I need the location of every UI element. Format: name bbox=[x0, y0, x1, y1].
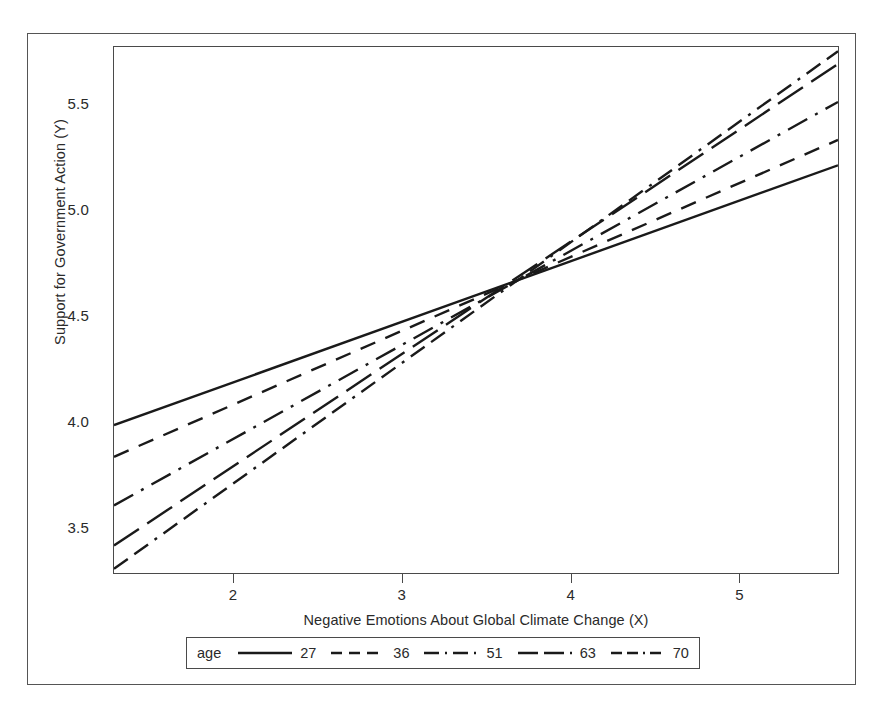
x-tick-mark bbox=[233, 574, 234, 583]
y-tick-label: 3.5 bbox=[68, 519, 89, 536]
series-line-70 bbox=[114, 51, 838, 569]
legend-entry-51[interactable]: 51 bbox=[423, 645, 502, 661]
legend-label: 51 bbox=[486, 645, 502, 661]
x-tick-mark bbox=[571, 574, 572, 583]
legend-label: 27 bbox=[300, 645, 316, 661]
y-axis-ticks: 3.54.04.55.05.5 bbox=[56, 46, 105, 574]
legend-swatch-long-dash bbox=[517, 647, 573, 659]
x-axis-title: Negative Emotions About Global Climate C… bbox=[113, 612, 839, 628]
x-tick-label: 4 bbox=[566, 586, 574, 603]
x-tick-label: 5 bbox=[735, 586, 743, 603]
legend-entries: 2736516370 bbox=[237, 645, 689, 661]
legend-entry-63[interactable]: 63 bbox=[517, 645, 596, 661]
y-tick-label: 4.5 bbox=[68, 307, 89, 324]
x-tick-label: 2 bbox=[229, 586, 237, 603]
series-line-63 bbox=[114, 64, 838, 546]
figure-frame: Support for Government Action (Y) 3.54.0… bbox=[27, 33, 856, 685]
plot-area bbox=[113, 46, 839, 574]
legend-swatch-dashed bbox=[330, 647, 386, 659]
chart-region: Support for Government Action (Y) 3.54.0… bbox=[28, 34, 857, 686]
legend-swatch-dash-dash-dot bbox=[610, 647, 666, 659]
legend-entry-36[interactable]: 36 bbox=[330, 645, 409, 661]
y-tick-label: 5.5 bbox=[68, 95, 89, 112]
legend-swatch-solid bbox=[237, 647, 293, 659]
legend-title: age bbox=[197, 645, 221, 661]
x-tick-label: 3 bbox=[398, 586, 406, 603]
x-axis-ticks: 2345 bbox=[113, 574, 839, 614]
series-line-27 bbox=[114, 165, 838, 425]
x-tick-mark bbox=[402, 574, 403, 583]
x-tick-mark bbox=[739, 574, 740, 583]
y-tick-label: 5.0 bbox=[68, 201, 89, 218]
series-line-36 bbox=[114, 140, 838, 457]
legend-entry-27[interactable]: 27 bbox=[237, 645, 316, 661]
legend-entry-70[interactable]: 70 bbox=[610, 645, 689, 661]
series-line-51 bbox=[114, 102, 838, 505]
plot-lines bbox=[114, 47, 838, 573]
y-tick-label: 4.0 bbox=[68, 413, 89, 430]
legend: age 2736516370 bbox=[186, 637, 700, 669]
legend-label: 36 bbox=[393, 645, 409, 661]
legend-label: 63 bbox=[580, 645, 596, 661]
legend-swatch-dash-dot bbox=[423, 647, 479, 659]
legend-label: 70 bbox=[673, 645, 689, 661]
